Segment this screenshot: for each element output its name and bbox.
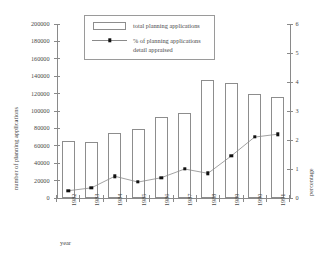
data-point-marker: [66, 189, 69, 192]
data-point-marker: [183, 167, 186, 170]
legend: total planning applications % of plannin…: [84, 15, 215, 60]
x-axis-tick-label: 1990: [257, 194, 263, 206]
x-axis-tick-label: 1989: [234, 194, 240, 206]
legend-label-total-applications: total planning applications: [133, 22, 200, 30]
data-point-marker: [160, 176, 163, 179]
data-point-marker: [276, 132, 279, 135]
x-axis-tick-label: 1986: [164, 194, 170, 206]
x-axis-tick-label: 1983: [94, 194, 100, 206]
data-point-marker: [253, 135, 256, 138]
legend-label-percent-appraised-line1: % of planning applications: [133, 37, 201, 45]
x-axis-tick-label: 1987: [187, 194, 193, 206]
planning-applications-chart: 0200004000060000800001000001200001400001…: [0, 0, 335, 260]
data-point-marker: [113, 175, 116, 178]
x-axis-tick-label: 1991: [280, 194, 286, 206]
y-axis-left-title: number of planning applications: [13, 107, 19, 190]
x-axis-tick-label: 1984: [117, 194, 123, 206]
y-axis-right-title: percentage: [308, 168, 314, 196]
data-point-marker: [230, 154, 233, 157]
x-axis-tick-label: 1985: [141, 194, 147, 206]
legend-marker-icon: [108, 39, 111, 42]
x-axis-title: year: [60, 240, 71, 246]
legend-bar-swatch: [93, 22, 126, 31]
x-axis-tick-label: 1988: [211, 194, 217, 206]
data-point-marker: [90, 186, 93, 189]
data-point-marker: [136, 180, 139, 183]
legend-label-percent-appraised-line2: detail appraised: [133, 46, 173, 54]
x-axis-tick-label: 1982: [71, 194, 77, 206]
data-point-marker: [206, 172, 209, 175]
